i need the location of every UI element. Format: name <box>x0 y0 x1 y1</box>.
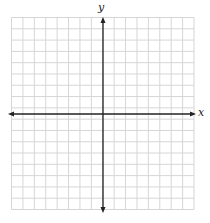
x-axis-label: x <box>198 106 204 119</box>
y-axis-label: y <box>98 1 104 14</box>
x-axis-right-arrow-icon <box>190 112 196 117</box>
coordinate-plane <box>0 0 210 223</box>
